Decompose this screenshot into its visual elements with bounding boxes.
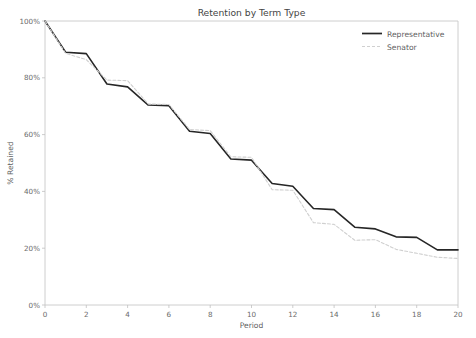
x-axis-label: Period	[240, 321, 264, 330]
y-tick-label: 80%	[24, 73, 40, 82]
x-tick-label: 6	[167, 310, 172, 319]
y-tick-label: 0%	[29, 301, 41, 310]
x-tick-label: 10	[247, 310, 257, 319]
x-tick-label: 14	[330, 310, 340, 319]
x-tick-label: 8	[208, 310, 213, 319]
x-axis-ticks: 02468101214161820	[43, 305, 463, 319]
x-tick-label: 20	[453, 310, 463, 319]
x-tick-label: 2	[84, 310, 89, 319]
retention-line-chart: 0%20%40%60%80%100% 02468101214161820 Ret…	[0, 0, 476, 338]
y-axis-ticks: 0%20%40%60%80%100%	[19, 17, 45, 310]
y-tick-label: 100%	[19, 17, 40, 26]
x-tick-label: 18	[412, 310, 422, 319]
x-tick-label: 12	[288, 310, 297, 319]
y-axis-label: % Retained	[6, 141, 15, 184]
y-tick-label: 40%	[24, 187, 40, 196]
legend-label-representative: Representative	[387, 30, 445, 39]
chart-title: Retention by Term Type	[198, 7, 306, 18]
x-tick-label: 4	[125, 310, 130, 319]
plot-background	[45, 21, 458, 305]
x-tick-label: 0	[43, 310, 48, 319]
y-tick-label: 20%	[24, 244, 40, 253]
legend-label-senator: Senator	[387, 43, 418, 52]
x-tick-label: 16	[371, 310, 381, 319]
chart-figure: 0%20%40%60%80%100% 02468101214161820 Ret…	[0, 0, 476, 338]
y-tick-label: 60%	[24, 130, 40, 139]
